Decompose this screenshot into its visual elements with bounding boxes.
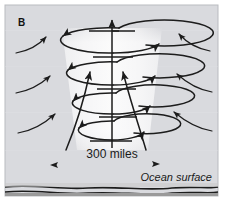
ocean-band-light <box>5 183 218 187</box>
scale-label: 300 miles <box>86 147 137 161</box>
panel-letter-label: B <box>18 17 25 28</box>
vortex-diagram: B 300 miles Ocean surface <box>0 0 225 205</box>
ocean-band-dark <box>5 193 218 196</box>
figure-container: B 300 miles Ocean surface <box>0 0 225 205</box>
ocean-surface-label: Ocean surface <box>140 171 212 183</box>
